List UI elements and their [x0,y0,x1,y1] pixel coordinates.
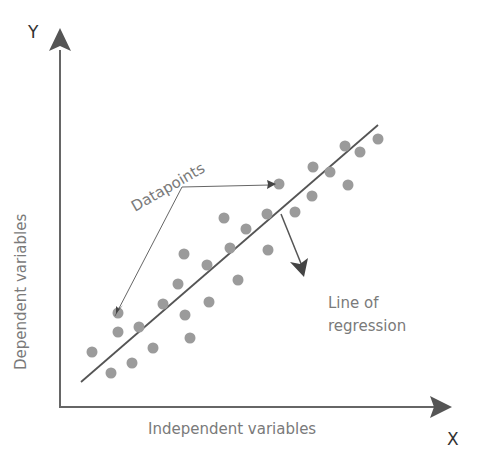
data-point [290,207,301,218]
data-point [134,322,145,333]
x-axis-label: Independent variables [148,420,316,438]
annotation-line-1: Line of [328,292,406,315]
x-axis-letter: X [447,429,459,449]
data-point [204,297,215,308]
data-point [308,162,319,173]
data-points [87,134,384,379]
data-point [158,299,169,310]
data-point [173,279,184,290]
data-point [355,147,366,158]
data-point [233,275,244,286]
line-of-regression-annotation: Line of regression [328,292,406,338]
regression-line [81,125,378,382]
data-point [87,347,98,358]
data-point [325,167,336,178]
data-point [263,245,274,256]
x-axis [59,396,452,418]
data-point [340,141,351,152]
y-axis [49,28,71,407]
y-axis-letter: Y [28,22,38,42]
data-point [307,191,318,202]
data-point [127,358,138,369]
y-axis-label: Dependent variables [12,214,30,370]
data-point [373,134,384,145]
data-point [202,260,213,271]
data-point [225,243,236,254]
regression-diagram [0,0,483,462]
data-point [180,310,191,321]
annotation-line-2: regression [328,315,406,338]
data-point [241,224,252,235]
data-point [148,343,159,354]
regression-pointer-arrow-icon [290,258,308,277]
data-point [179,249,190,260]
data-point [106,368,117,379]
y-axis-arrow-icon [49,28,71,51]
data-point [343,180,354,191]
data-point [185,333,196,344]
data-point [113,327,124,338]
data-point [219,213,230,224]
data-point [262,209,273,220]
